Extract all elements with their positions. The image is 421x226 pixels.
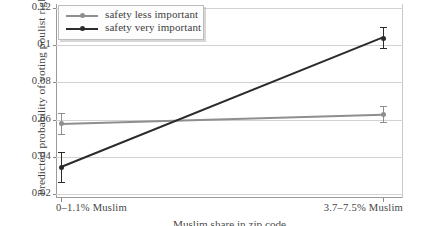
legend-marker-swatch — [80, 13, 85, 18]
series-line-1 — [61, 37, 384, 168]
y-axis-title: Predicted probability of voting poulist … — [35, 0, 47, 214]
x-tick-label-1: 3.7–7.5% Muslim — [291, 202, 403, 213]
gridline-0.1 — [56, 45, 403, 46]
error-bar-cap-0-0-upper — [58, 113, 65, 114]
error-bar-cap-0-1-upper — [380, 106, 387, 107]
y-tick-mark-0.04 — [53, 157, 56, 158]
y-tick-label-0.04: 0.04 — [0, 150, 51, 161]
error-bar-cap-1-0-upper — [58, 152, 65, 153]
error-bar-cap-1-0-lower — [58, 182, 65, 183]
y-tick-mark-0.08 — [53, 82, 56, 83]
legend-label: safety less important — [105, 8, 198, 20]
legend: safety less important safety very import… — [58, 5, 204, 40]
plot-right-edge — [402, 4, 403, 198]
y-tick-label-0.02: 0.02 — [0, 187, 51, 198]
y-tick-label-0.12: 0.12 — [0, 1, 51, 12]
y-tick-mark-0.06 — [53, 120, 56, 121]
legend-label: safety very important — [105, 21, 201, 33]
gridline-0.08 — [56, 82, 403, 83]
gridline-0.04 — [56, 157, 403, 158]
y-axis-line — [56, 4, 57, 198]
x-tick-label-0: 0–1.1% Muslim — [56, 202, 127, 213]
x-axis-line — [56, 197, 403, 198]
y-tick-label-0.06: 0.06 — [0, 113, 51, 124]
error-bar-cap-0-0-lower — [58, 134, 65, 135]
data-point-1-0[interactable] — [59, 165, 64, 170]
legend-marker-swatch — [80, 26, 85, 31]
y-tick-mark-0.12 — [53, 8, 56, 9]
error-bar-cap-1-1-upper — [380, 27, 387, 28]
error-bar-cap-0-1-lower — [380, 122, 387, 123]
series-line-0 — [61, 113, 383, 124]
error-bar-cap-1-1-lower — [380, 48, 387, 49]
y-tick-mark-0.02 — [53, 194, 56, 195]
gridline-0.02 — [56, 194, 403, 195]
y-tick-label-0.1: 0.1 — [0, 38, 51, 49]
data-point-0-1[interactable] — [381, 112, 386, 117]
x-axis-title: Muslim share in zip code — [56, 218, 403, 226]
data-point-1-1[interactable] — [381, 36, 386, 41]
y-tick-mark-0.1 — [53, 45, 56, 46]
data-point-0-0[interactable] — [59, 121, 64, 126]
y-tick-label-0.08: 0.08 — [0, 75, 51, 86]
